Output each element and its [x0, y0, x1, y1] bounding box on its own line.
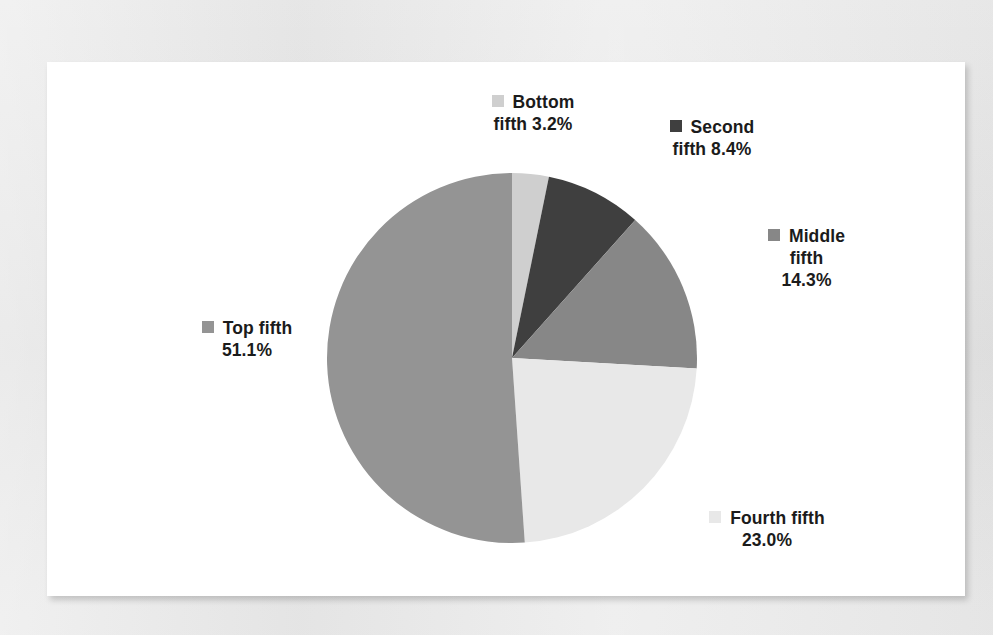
pie-label-bottom-fifth-text2: fifth 3.2%	[453, 114, 613, 136]
pie-label-bottom-fifth-line1: Bottom	[453, 92, 613, 114]
pie-label-top-fifth-text1: Top fifth	[223, 318, 293, 338]
fourth-fifth-swatch	[709, 511, 721, 523]
pie-label-middle-fifth-text2: fifth	[719, 248, 894, 270]
middle-fifth-swatch	[768, 229, 780, 241]
pie-label-bottom-fifth-text1: Bottom	[513, 92, 575, 112]
pie-label-fourth-fifth: Fourth fifth 23.0%	[667, 508, 867, 552]
pie-label-middle-fifth: Middle fifth 14.3%	[719, 226, 894, 292]
pie-label-second-fifth-text2: fifth 8.4%	[627, 139, 797, 161]
pie-slice-group	[327, 173, 697, 543]
second-fifth-swatch	[670, 120, 682, 132]
pie-label-middle-fifth-text3: 14.3%	[719, 270, 894, 292]
pie-label-middle-fifth-text1: Middle	[789, 226, 845, 246]
pie-label-top-fifth-text2: 51.1%	[152, 340, 342, 362]
chart-panel: Bottom fifth 3.2% Second fifth 8.4% Midd…	[47, 62, 965, 596]
pie-label-fourth-fifth-line1: Fourth fifth	[667, 508, 867, 530]
pie-slice-top-fifth[interactable]	[327, 173, 525, 543]
pie-label-top-fifth: Top fifth 51.1%	[152, 318, 342, 362]
pie-label-second-fifth: Second fifth 8.4%	[627, 117, 797, 161]
pie-label-bottom-fifth: Bottom fifth 3.2%	[453, 92, 613, 136]
bottom-fifth-swatch	[492, 95, 504, 107]
pie-label-second-fifth-text1: Second	[691, 117, 755, 137]
pie-label-fourth-fifth-text1: Fourth fifth	[730, 508, 825, 528]
pie-label-top-fifth-line1: Top fifth	[152, 318, 342, 340]
pie-label-second-fifth-line1: Second	[627, 117, 797, 139]
pie-label-fourth-fifth-text2: 23.0%	[667, 530, 867, 552]
top-fifth-swatch	[202, 321, 214, 333]
pie-label-middle-fifth-line1: Middle	[719, 226, 894, 248]
